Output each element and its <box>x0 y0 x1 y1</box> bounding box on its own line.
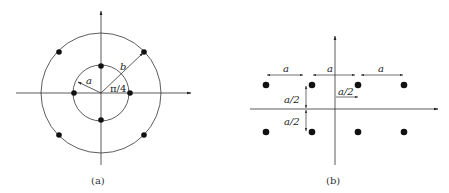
grid-point <box>263 129 270 136</box>
caption-a: (a) <box>91 175 105 186</box>
label-half-horizontal: a/2 <box>338 86 354 97</box>
label-spacing-left: a <box>283 63 289 74</box>
diagram-canvas: a b π/4 (a) a a a a/2 a/2 a/2 (b) <box>0 0 449 193</box>
grid-point <box>309 129 316 136</box>
label-half-vertical-bottom: a/2 <box>284 116 300 127</box>
label-spacing-right: a <box>378 63 384 74</box>
outer-point <box>141 49 147 55</box>
label-angle: π/4 <box>110 83 126 94</box>
label-half-vertical-top: a/2 <box>284 94 300 105</box>
panel-b: a a a a/2 a/2 a/2 (b) <box>250 36 438 186</box>
label-b: b <box>120 61 126 72</box>
grid-point <box>355 129 362 136</box>
grid-point <box>401 82 408 89</box>
caption-b: (b) <box>326 175 340 186</box>
inner-point <box>98 63 104 69</box>
grid-point <box>401 129 408 136</box>
outer-point <box>56 49 62 55</box>
grid-point <box>309 82 316 89</box>
inner-point <box>98 117 104 123</box>
inner-point <box>71 90 77 96</box>
grid-point <box>355 82 362 89</box>
outer-point <box>141 132 147 138</box>
outer-point <box>56 132 62 138</box>
inner-point <box>127 90 133 96</box>
label-a: a <box>86 75 92 86</box>
grid-point <box>263 82 270 89</box>
label-spacing-center: a <box>327 63 333 74</box>
panel-a: a b π/4 (a) <box>16 11 191 186</box>
